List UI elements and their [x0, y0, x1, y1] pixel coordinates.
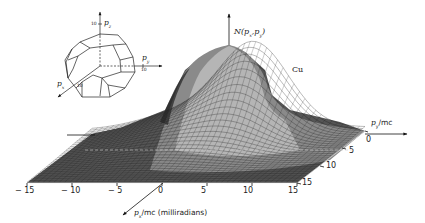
inset-px-label: px	[57, 80, 64, 90]
x-tick: 15	[288, 187, 298, 195]
y-tick: 5	[349, 147, 354, 155]
x-tick: − 10	[61, 187, 80, 195]
px-axis-label: px/mc (milliradians)	[134, 209, 207, 219]
x-tick: − 15	[15, 187, 34, 195]
py-axis-label: py/mc	[371, 119, 392, 129]
material-label: Cu	[292, 66, 303, 74]
y-tick: 10	[326, 162, 336, 170]
inset-pz-label: pz	[104, 19, 111, 29]
y-tick: 15	[302, 179, 312, 187]
surface-plot	[27, 41, 365, 183]
inset-py-label: py	[142, 54, 149, 64]
x-tick: − 5	[108, 187, 122, 195]
x-tick: 5	[201, 187, 206, 195]
x-tick: 0	[158, 187, 163, 195]
inset-py-tick: 10	[141, 68, 147, 73]
inset-pz-tick: 10	[91, 22, 97, 27]
x-tick: 10	[243, 187, 253, 195]
z-axis-label: N(px,py)	[234, 28, 265, 38]
y-tick: 0	[366, 136, 371, 144]
inset-px-tick: 10	[77, 84, 83, 89]
